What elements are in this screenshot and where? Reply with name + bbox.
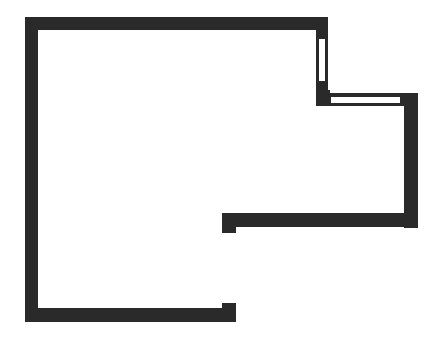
floor-plan: Outline floor plan of an L-shaped room w… xyxy=(0,0,441,342)
lower-right-wall-end-tab xyxy=(222,213,236,233)
window-vertical xyxy=(318,38,326,82)
bottom-wall xyxy=(25,308,236,322)
top-wall xyxy=(25,17,328,30)
lower-right-wall xyxy=(222,213,418,227)
bottom-wall-end-tab xyxy=(222,303,236,322)
left-wall xyxy=(25,17,38,322)
window-horizontal xyxy=(330,96,401,104)
right-wall xyxy=(404,93,418,228)
